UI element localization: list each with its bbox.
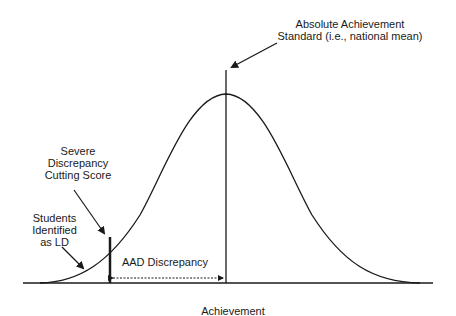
cutting-label-line3: Cutting Score: [38, 169, 118, 181]
bell-curve: [40, 94, 420, 283]
aad-discrepancy-label: AAD Discrepancy: [115, 256, 215, 268]
cutting-label-line2: Discrepancy: [38, 157, 118, 169]
x-axis-label: Achievement: [183, 305, 283, 316]
students-label-line2: Identified: [22, 224, 87, 236]
severe-discrepancy-label: Severe Discrepancy Cutting Score: [38, 145, 118, 181]
students-label-line3: as LD: [22, 236, 87, 248]
students-label-line1: Students: [22, 212, 87, 224]
students-arrow: [62, 247, 83, 268]
mean-arrow: [232, 43, 277, 67]
standard-label-line2: Standard (i.e., national mean): [250, 30, 450, 42]
cutting-label-line1: Severe: [38, 145, 118, 157]
absolute-achievement-standard-label: Absolute Achievement Standard (i.e., nat…: [250, 18, 450, 42]
students-identified-label: Students Identified as LD: [22, 212, 87, 248]
standard-label-line1: Absolute Achievement: [250, 18, 450, 30]
